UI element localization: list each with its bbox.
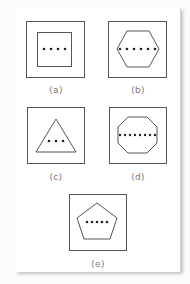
octagon-dots [119, 134, 156, 136]
panel-e-label: (e) [91, 259, 104, 269]
triangle-shape [36, 119, 76, 152]
panel-a-frame [27, 22, 85, 78]
panel-c-label: (c) [50, 172, 63, 182]
hexagon-dots [119, 48, 157, 51]
square-dots [43, 48, 67, 51]
figure-diagram [0, 0, 190, 284]
square-shape [38, 33, 72, 67]
panel-a-label: (a) [49, 85, 62, 95]
triangle-dots [48, 140, 65, 143]
pentagon-dots [86, 221, 109, 224]
panel-d-label: (d) [131, 172, 145, 182]
hexagon-shape [117, 31, 159, 67]
panel-b-label: (b) [131, 85, 145, 95]
panel-c-frame [28, 108, 85, 164]
